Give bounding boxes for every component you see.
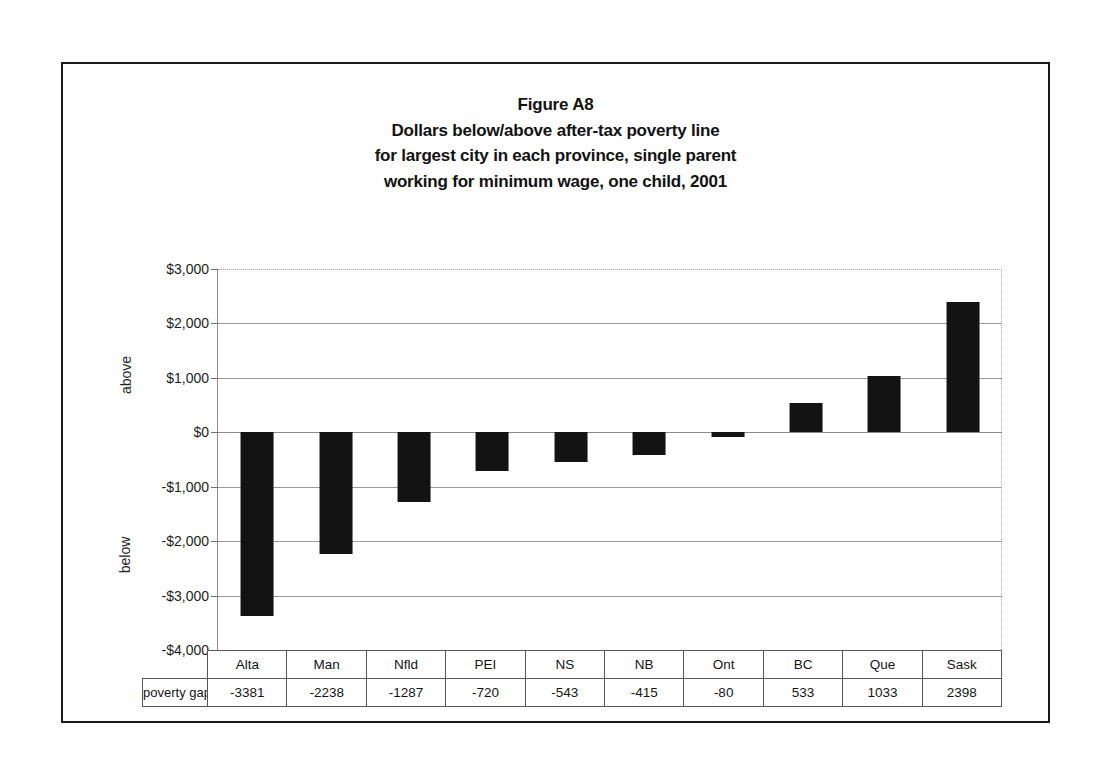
table-value-cell: 2398 xyxy=(922,679,1001,707)
title-line-3: for largest city in each province, singl… xyxy=(63,143,1048,169)
table-header-cell: PEI xyxy=(446,651,525,679)
y-axis-tick-label: $2,000 xyxy=(166,315,209,331)
y-axis-tick-mark xyxy=(211,323,218,324)
bar-que[interactable] xyxy=(868,376,901,432)
table-value-cell: -543 xyxy=(525,679,604,707)
bar-slot xyxy=(375,269,453,650)
table-header-cell: Sask xyxy=(922,651,1001,679)
y-axis-tick-mark xyxy=(211,432,218,433)
data-table: AltaManNfldPEINSNBOntBCQueSask poverty g… xyxy=(142,650,1002,707)
title-line-1: Figure A8 xyxy=(63,92,1048,118)
bar-slot xyxy=(532,269,610,650)
y-axis-tick-mark xyxy=(211,487,218,488)
table-value-cell: 1033 xyxy=(843,679,922,707)
y-axis-tick-label: $3,000 xyxy=(166,261,209,277)
bar-slot xyxy=(610,269,688,650)
table-header-cell: Man xyxy=(287,651,366,679)
bar-ont[interactable] xyxy=(711,432,744,436)
table-row-categories: AltaManNfldPEINSNBOntBCQueSask xyxy=(143,651,1002,679)
chart-plot-area: $3,000$2,000$1,000$0-$1,000-$2,000-$3,00… xyxy=(218,269,1002,650)
table-header-cell: Que xyxy=(843,651,922,679)
figure-title: Figure A8 Dollars below/above after-tax … xyxy=(63,92,1048,194)
table-header-cell: NB xyxy=(605,651,684,679)
table-value-cell: -415 xyxy=(605,679,684,707)
table-value-cell: -80 xyxy=(684,679,763,707)
bar-nb[interactable] xyxy=(633,432,666,455)
y-axis-tick-label: $1,000 xyxy=(166,370,209,386)
bar-slot xyxy=(924,269,1002,650)
table-row-label: poverty gap xyxy=(143,679,208,707)
figure-frame: Figure A8 Dollars below/above after-tax … xyxy=(61,62,1050,723)
bar-slot xyxy=(688,269,766,650)
table-header-cell: Ont xyxy=(684,651,763,679)
table-header-cell: Nfld xyxy=(366,651,445,679)
bar-man[interactable] xyxy=(319,432,352,554)
bar-pei[interactable] xyxy=(476,432,509,471)
y-axis-tick-mark xyxy=(211,378,218,379)
y-axis-tick-label: -$1,000 xyxy=(162,479,209,495)
bar-slot xyxy=(296,269,374,650)
table-value-cell: -1287 xyxy=(366,679,445,707)
table-value-cell: -3381 xyxy=(208,679,287,707)
table-value-cell: 533 xyxy=(763,679,842,707)
axis-side-label-below: below xyxy=(117,537,133,574)
table-header-cell: BC xyxy=(763,651,842,679)
axis-side-label-above: above xyxy=(118,356,134,394)
bar-slot xyxy=(453,269,531,650)
bar-nfld[interactable] xyxy=(398,432,431,502)
y-axis-tick-label: $0 xyxy=(193,424,209,440)
bar-ns[interactable] xyxy=(554,432,587,462)
table-corner-cell xyxy=(143,651,208,679)
y-axis-tick-label: -$3,000 xyxy=(162,588,209,604)
bar-bc[interactable] xyxy=(790,403,823,432)
table-row-values: poverty gap -3381-2238-1287-720-543-415-… xyxy=(143,679,1002,707)
bar-slot xyxy=(218,269,296,650)
y-axis-tick-label: -$2,000 xyxy=(162,533,209,549)
y-axis-tick-mark xyxy=(211,596,218,597)
bar-slot xyxy=(767,269,845,650)
table-value-cell: -720 xyxy=(446,679,525,707)
table-header-cell: NS xyxy=(525,651,604,679)
y-axis-tick-mark xyxy=(211,269,218,270)
bar-sask[interactable] xyxy=(946,302,979,433)
bar-alta[interactable] xyxy=(241,432,274,616)
title-line-4: working for minimum wage, one child, 200… xyxy=(63,169,1048,195)
bars-layer xyxy=(218,269,1002,650)
title-line-2: Dollars below/above after-tax poverty li… xyxy=(63,118,1048,144)
table-value-cell: -2238 xyxy=(287,679,366,707)
y-axis-tick-mark xyxy=(211,541,218,542)
table-header-cell: Alta xyxy=(208,651,287,679)
bar-slot xyxy=(845,269,923,650)
